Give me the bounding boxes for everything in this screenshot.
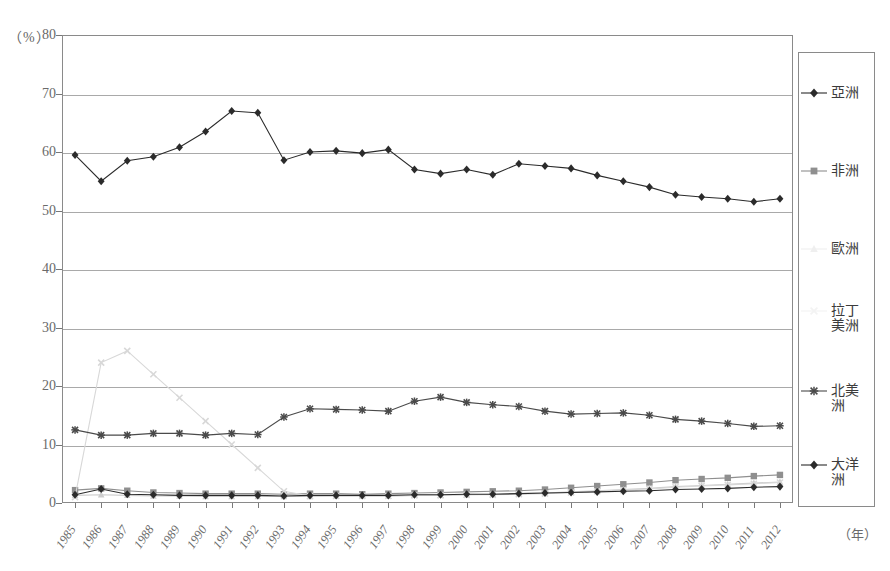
legend-label: 亞洲 (831, 85, 871, 100)
data-point (777, 472, 783, 478)
x-tick-label: 1995 (314, 523, 341, 552)
data-point (751, 473, 757, 479)
x-tick-mark (780, 503, 781, 508)
data-point (202, 431, 210, 439)
legend-label-line1: 大洋 (831, 457, 871, 472)
y-tick-label: 0 (10, 495, 56, 511)
x-tick-label: 1992 (236, 523, 263, 552)
legend-label: 非洲 (831, 163, 871, 178)
data-point (810, 460, 818, 469)
x-tick-label: 1987 (105, 523, 132, 552)
legend-item-北美洲[interactable]: 北美洲 (799, 383, 876, 413)
legend-item-拉丁美洲[interactable]: 拉丁美洲 (799, 303, 876, 333)
y-tick-label: 40 (10, 261, 56, 277)
x-tick-mark (649, 503, 650, 508)
data-point (254, 431, 262, 439)
x-tick-mark (206, 503, 207, 508)
data-point (255, 465, 261, 471)
legend-marker-diamond-icon (799, 457, 829, 473)
x-tick-mark (75, 503, 76, 508)
data-point (124, 157, 131, 165)
x-tick-mark (179, 503, 180, 508)
x-tick-label: 2011 (732, 524, 758, 552)
x-tick-mark (388, 503, 389, 508)
data-point (810, 88, 818, 97)
x-tick-label: 1998 (392, 523, 419, 552)
x-tick-mark (441, 503, 442, 508)
x-tick-mark (519, 503, 520, 508)
x-tick-mark (728, 503, 729, 508)
data-point (254, 109, 261, 117)
x-tick-mark (101, 503, 102, 508)
x-tick-mark (284, 503, 285, 508)
data-point (437, 393, 445, 401)
data-point (568, 164, 575, 172)
legend-item-非洲[interactable]: 非洲 (799, 163, 876, 179)
legend-item-歐洲[interactable]: 歐洲 (799, 241, 876, 257)
x-tick-label: 2002 (497, 523, 524, 552)
line-chart: （%） 01020304050607080 198519861987198819… (0, 0, 890, 571)
x-tick-label: 2008 (653, 523, 680, 552)
x-tick-label: 1994 (288, 523, 315, 552)
x-tick-label: 2005 (575, 523, 602, 552)
x-tick-label: 1988 (131, 523, 158, 552)
data-point (71, 426, 79, 434)
data-point (810, 387, 819, 396)
x-tick-label: 2012 (758, 523, 785, 552)
x-tick-mark (414, 503, 415, 508)
data-point (489, 171, 496, 179)
data-point (437, 170, 444, 178)
data-point (150, 371, 156, 377)
data-point (176, 430, 184, 438)
x-tick-label: 1990 (183, 523, 210, 552)
data-point (515, 403, 523, 411)
legend-label-line1: 拉丁 (831, 303, 871, 318)
y-tick-label: 50 (10, 203, 56, 219)
y-tick-label: 80 (10, 27, 56, 43)
data-point (176, 143, 183, 151)
data-point (620, 409, 628, 417)
data-point (646, 412, 654, 420)
legend: 亞洲非洲歐洲拉丁美洲北美洲大洋洲 (798, 52, 875, 507)
x-tick-mark (153, 503, 154, 508)
data-point (385, 407, 393, 415)
series-line (75, 397, 780, 435)
data-point (202, 127, 209, 135)
x-tick-label: 2003 (523, 523, 550, 552)
data-point (97, 431, 105, 439)
data-point (229, 442, 235, 448)
data-point (811, 168, 818, 175)
data-point (567, 410, 575, 418)
legend-item-亞洲[interactable]: 亞洲 (799, 85, 876, 101)
x-tick-mark (545, 503, 546, 508)
x-tick-mark (336, 503, 337, 508)
data-point (698, 476, 704, 482)
data-point (515, 160, 522, 168)
y-axis: 01020304050607080 (4, 35, 56, 503)
legend-marker-triangle-icon (799, 241, 829, 257)
data-point (228, 107, 235, 115)
data-point (594, 171, 601, 179)
legend-marker-square-icon (799, 163, 829, 179)
x-tick-label: 2010 (706, 523, 733, 552)
data-point (307, 148, 314, 156)
x-axis: 1985198619871988198919901991199219931994… (62, 503, 793, 571)
data-point (359, 149, 366, 157)
x-tick-mark (571, 503, 572, 508)
data-point (620, 177, 627, 185)
series-line (75, 351, 780, 497)
series-line (75, 111, 780, 202)
legend-item-大洋洲[interactable]: 大洋洲 (799, 457, 876, 487)
x-tick-mark (362, 503, 363, 508)
data-point (672, 416, 680, 424)
data-point (542, 162, 549, 170)
series-北美洲 (71, 393, 783, 439)
x-tick-mark (623, 503, 624, 508)
x-tick-mark (258, 503, 259, 508)
y-tick-label: 70 (10, 86, 56, 102)
x-tick-label: 1985 (53, 523, 80, 552)
legend-label: 拉丁美洲 (831, 303, 871, 333)
data-point (124, 431, 132, 439)
legend-label-line2: 洲 (831, 472, 871, 487)
x-axis-unit-label: （年） (838, 524, 877, 543)
